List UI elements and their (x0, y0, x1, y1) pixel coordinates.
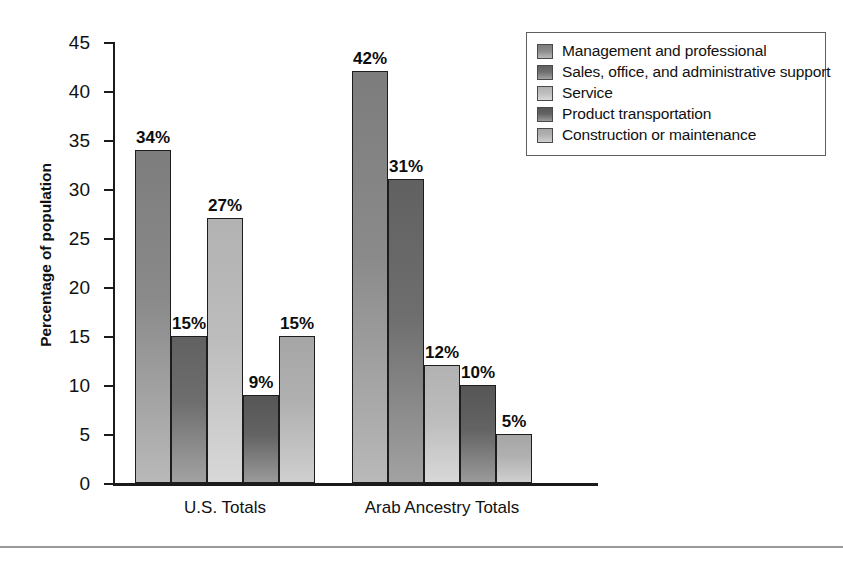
bar: 9% (243, 395, 279, 483)
legend-swatch-icon (537, 86, 553, 101)
legend-item-label: Product transportation (562, 105, 711, 123)
y-axis-tick: 0 (104, 483, 113, 485)
bar: 10% (460, 385, 496, 483)
y-axis-tick: 10 (104, 385, 113, 387)
x-axis-group-label: Arab Ancestry Totals (365, 498, 520, 518)
bar-value-label: 34% (136, 128, 170, 148)
legend-swatch-icon (537, 128, 553, 143)
bar-value-label: 9% (249, 373, 274, 393)
y-axis-tick: 20 (104, 287, 113, 289)
bar-value-label: 5% (502, 412, 527, 432)
legend-item: Service (537, 84, 815, 102)
bar-value-label: 12% (425, 343, 459, 363)
legend-item-label: Construction or maintenance (562, 126, 756, 144)
footer-divider (0, 546, 843, 548)
bar: 27% (207, 218, 243, 483)
legend-item: Sales, office, and administrative suppor… (537, 63, 815, 81)
y-axis-tick: 5 (104, 434, 113, 436)
y-axis-tick: 45 (104, 42, 113, 44)
bar: 5% (496, 434, 532, 483)
legend-item-label: Service (562, 84, 613, 102)
y-axis-tick-label: 10 (69, 375, 90, 397)
bar-chart-figure: Percentage of population 454035302520151… (0, 0, 843, 561)
chart-legend: Management and professionalSales, office… (526, 32, 826, 156)
bar-value-label: 10% (461, 363, 495, 383)
bar: 15% (171, 336, 207, 483)
legend-item: Construction or maintenance (537, 126, 815, 144)
legend-item: Product transportation (537, 105, 815, 123)
y-axis-tick-label: 0 (79, 473, 90, 495)
bar-value-label: 15% (280, 314, 314, 334)
bar: 15% (279, 336, 315, 483)
y-axis-tick: 40 (104, 91, 113, 93)
bar: 12% (424, 365, 460, 483)
y-axis-tick: 35 (104, 140, 113, 142)
bar-value-label: 31% (389, 157, 423, 177)
legend-swatch-icon (537, 44, 553, 59)
x-axis-group-label: U.S. Totals (184, 498, 266, 518)
bar-value-label: 27% (208, 196, 242, 216)
x-axis-line (113, 483, 598, 486)
y-axis-tick: 30 (104, 189, 113, 191)
bar: 31% (388, 179, 424, 483)
y-axis-tick-label: 35 (69, 130, 90, 152)
y-axis-tick-label: 15 (69, 326, 90, 348)
legend-swatch-icon (537, 107, 553, 122)
bar: 34% (135, 150, 171, 483)
y-axis-tick-label: 20 (69, 277, 90, 299)
legend-item: Management and professional (537, 42, 815, 60)
legend-item-label: Sales, office, and administrative suppor… (562, 63, 830, 81)
legend-swatch-icon (537, 65, 553, 80)
y-axis-tick: 25 (104, 238, 113, 240)
y-axis-tick-label: 25 (69, 228, 90, 250)
bar-value-label: 42% (353, 49, 387, 69)
y-axis-tick-label: 30 (69, 179, 90, 201)
y-axis-line (113, 42, 115, 483)
legend-item-label: Management and professional (562, 42, 766, 60)
y-axis-tick-label: 40 (69, 81, 90, 103)
y-axis-tick-label: 45 (69, 32, 90, 54)
y-axis-title: Percentage of population (37, 125, 55, 385)
y-axis-tick-label: 5 (79, 424, 90, 446)
y-axis-tick: 15 (104, 336, 113, 338)
bar: 42% (352, 71, 388, 483)
bar-value-label: 15% (172, 314, 206, 334)
